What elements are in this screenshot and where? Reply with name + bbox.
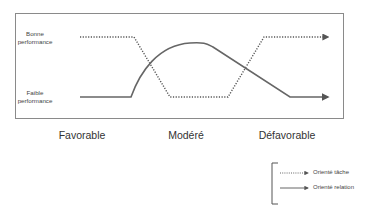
task-oriented-line bbox=[80, 37, 328, 97]
legend-label-task: Orienté tâche bbox=[313, 169, 349, 175]
legend-label-relation: Orienté relation bbox=[313, 184, 354, 190]
performance-curves bbox=[0, 0, 372, 212]
x-label-favorable: Favorable bbox=[37, 129, 127, 141]
legend-bracket bbox=[272, 163, 278, 204]
relation-oriented-line bbox=[80, 43, 328, 97]
x-label-defavorable: Défavorable bbox=[242, 129, 332, 141]
x-label-modere: Modéré bbox=[141, 129, 231, 141]
